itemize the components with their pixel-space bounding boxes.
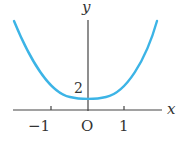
curve — [14, 21, 157, 99]
y-axis-label: y — [81, 0, 91, 16]
min-value-label: 2 — [74, 80, 83, 96]
origin-label: O — [81, 117, 93, 135]
x-tick-label-neg1: −1 — [28, 117, 50, 135]
x-axis-label: x — [167, 100, 176, 118]
x-tick-label-pos1: 1 — [119, 117, 129, 135]
graph: y x 2 −1 O 1 — [0, 0, 187, 150]
